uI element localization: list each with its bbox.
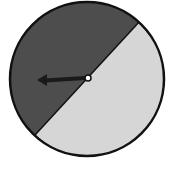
pivot-icon [85,75,91,81]
spinner-diagram [0,0,174,169]
